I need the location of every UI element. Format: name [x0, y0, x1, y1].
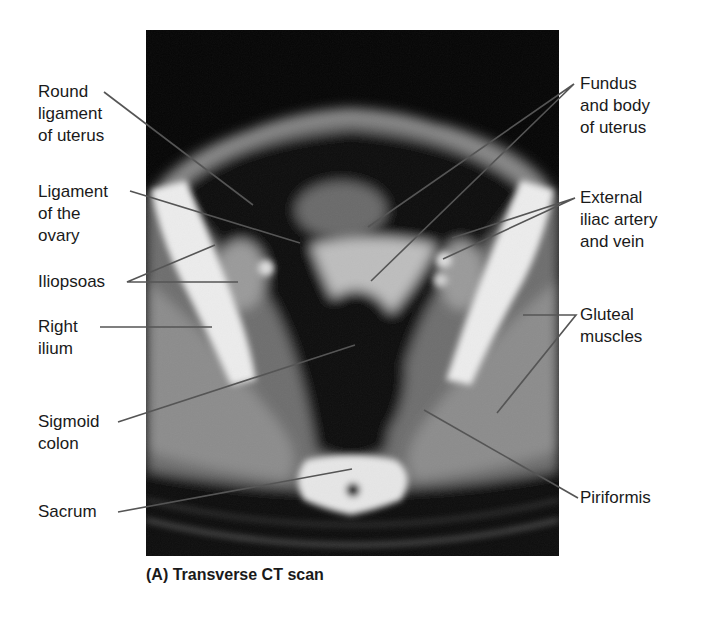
- label-fundus-body-uterus: Fundus and body of uterus: [580, 73, 650, 139]
- label-ligament-ovary: Ligament of the ovary: [38, 181, 108, 247]
- label-right-ilium: Right ilium: [38, 316, 78, 360]
- label-sigmoid-colon: Sigmoid colon: [38, 411, 99, 455]
- ct-scan-graphic: [146, 30, 559, 556]
- ct-scan-image: [146, 30, 559, 556]
- label-gluteal-muscles: Gluteal muscles: [580, 304, 642, 348]
- label-iliopsoas: Iliopsoas: [38, 271, 105, 293]
- figure-caption: (A) Transverse CT scan: [146, 566, 324, 584]
- label-round-ligament: Round ligament of uterus: [38, 81, 104, 147]
- label-sacrum: Sacrum: [38, 501, 97, 523]
- label-piriformis: Piriformis: [580, 487, 651, 509]
- label-external-iliac: External iliac artery and vein: [580, 187, 657, 253]
